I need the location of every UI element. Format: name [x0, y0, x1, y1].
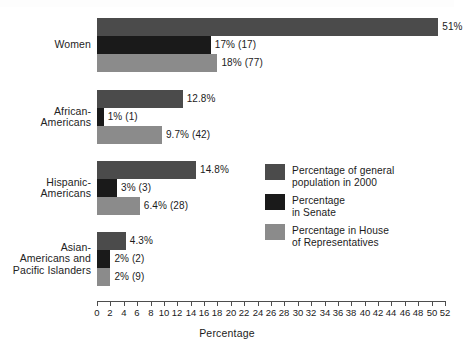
- bar: [97, 36, 211, 54]
- x-axis-tick-label: 38: [346, 308, 357, 318]
- legend-color-swatch: [265, 164, 285, 180]
- x-axis-tick: [204, 302, 205, 306]
- x-axis-tick-label: 40: [360, 308, 371, 318]
- bar-value-label: 51%: [442, 22, 462, 32]
- category-label: Women: [0, 39, 91, 51]
- x-axis-tick-label: 48: [413, 308, 424, 318]
- x-axis-tick-label: 22: [239, 308, 250, 318]
- x-axis-tick: [405, 302, 406, 306]
- x-axis-tick-label: 0: [94, 308, 99, 318]
- x-axis-tick: [177, 302, 178, 306]
- x-axis-tick-label: 16: [199, 308, 210, 318]
- bar: [97, 90, 183, 108]
- x-axis-tick-label: 8: [148, 308, 153, 318]
- bar-value-label: 6.4% (28): [144, 201, 188, 211]
- legend-item: Percentage in Senate: [265, 194, 394, 218]
- x-axis-tick-label: 42: [373, 308, 384, 318]
- category-label: African- Americans: [0, 106, 91, 129]
- x-axis-tick-label: 12: [172, 308, 183, 318]
- bar: [97, 268, 110, 286]
- legend-color-swatch: [265, 194, 285, 210]
- bar: [97, 18, 438, 36]
- bar: [97, 126, 162, 144]
- x-axis-tick: [244, 302, 245, 306]
- legend-item: Percentage of general population in 2000: [265, 164, 394, 188]
- bar-value-label: 9.7% (42): [166, 130, 210, 140]
- x-axis-tick: [351, 302, 352, 306]
- legend: Percentage of general population in 2000…: [265, 164, 394, 255]
- x-axis-tick: [97, 302, 98, 306]
- x-axis-tick-label: 50: [427, 308, 438, 318]
- x-axis-tick: [391, 302, 392, 306]
- x-axis-tick-label: 14: [186, 308, 197, 318]
- x-axis-tick-label: 4: [121, 308, 126, 318]
- x-axis-tick-label: 2: [107, 308, 112, 318]
- bar: [97, 232, 126, 250]
- x-axis-tick-label: 26: [266, 308, 277, 318]
- x-axis-tick: [445, 302, 446, 306]
- legend-color-swatch: [265, 224, 285, 240]
- x-axis-tick: [432, 302, 433, 306]
- x-axis-tick: [124, 302, 125, 306]
- x-axis-tick: [325, 302, 326, 306]
- bar-value-label: 2% (2): [114, 254, 144, 264]
- bar-value-label: 12.8%: [187, 94, 216, 104]
- x-axis-title: Percentage: [0, 327, 454, 339]
- x-axis-tick-label: 46: [400, 308, 411, 318]
- x-axis-tick-label: 32: [306, 308, 317, 318]
- x-axis-tick: [365, 302, 366, 306]
- x-axis-tick: [338, 302, 339, 306]
- category-label: Hispanic- Americans: [0, 177, 91, 200]
- x-axis-tick: [311, 302, 312, 306]
- x-axis-tick-label: 24: [253, 308, 264, 318]
- x-axis-tick-label: 34: [320, 308, 331, 318]
- legend-label: Percentage of general population in 2000: [292, 164, 394, 188]
- x-axis-tick: [137, 302, 138, 306]
- x-axis-tick-label: 20: [226, 308, 237, 318]
- x-axis-tick-label: 52: [440, 308, 451, 318]
- bar-value-label: 17% (17): [215, 40, 256, 50]
- bar-value-label: 3% (3): [121, 183, 151, 193]
- x-axis-tick: [151, 302, 152, 306]
- x-axis-tick: [110, 302, 111, 306]
- bar: [97, 197, 140, 215]
- bar-value-label: 18% (77): [221, 58, 262, 68]
- bar-value-label: 1% (1): [108, 112, 138, 122]
- category-label: Asian- Americans and Pacific Islanders: [0, 242, 91, 277]
- bar-value-label: 14.8%: [200, 165, 229, 175]
- x-axis-tick: [164, 302, 165, 306]
- legend-item: Percentage in House of Representatives: [265, 224, 394, 248]
- bar: [97, 161, 196, 179]
- x-axis-tick: [258, 302, 259, 306]
- x-axis-tick-label: 30: [293, 308, 304, 318]
- x-axis-tick: [284, 302, 285, 306]
- x-axis-tick-label: 44: [386, 308, 397, 318]
- bar: [97, 54, 217, 72]
- x-axis-tick: [217, 302, 218, 306]
- bar: [97, 108, 104, 126]
- x-axis-tick: [231, 302, 232, 306]
- x-axis-tick-label: 10: [159, 308, 170, 318]
- legend-label: Percentage in Senate: [292, 194, 345, 218]
- bar-value-label: 4.3%: [130, 236, 153, 246]
- bar: [97, 250, 110, 268]
- x-axis-tick-label: 28: [279, 308, 290, 318]
- scan-edge-artifact: [0, 0, 454, 7]
- x-axis-tick: [271, 302, 272, 306]
- x-axis-tick: [418, 302, 419, 306]
- x-axis-tick: [298, 302, 299, 306]
- x-axis-tick: [191, 302, 192, 306]
- x-axis-tick: [378, 302, 379, 306]
- x-axis-tick-label: 6: [134, 308, 139, 318]
- legend-label: Percentage in House of Representatives: [292, 224, 389, 248]
- x-axis-tick-label: 36: [333, 308, 344, 318]
- bar: [97, 179, 117, 197]
- bar-value-label: 2% (9): [114, 272, 144, 282]
- x-axis-tick-label: 18: [212, 308, 223, 318]
